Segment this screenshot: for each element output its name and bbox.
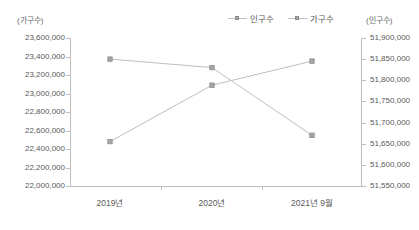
data-point-marker[interactable] bbox=[210, 65, 214, 69]
series-plot-area bbox=[0, 0, 419, 230]
data-point-marker[interactable] bbox=[310, 59, 314, 63]
data-point-marker[interactable] bbox=[310, 133, 314, 137]
data-point-marker[interactable] bbox=[108, 139, 112, 143]
line-chart: (가구수) (인구수) 인구수 가구수 23,600,00023,400,000… bbox=[0, 0, 419, 230]
series-line-가구수 bbox=[110, 61, 312, 142]
series-line-인구수 bbox=[110, 59, 312, 135]
data-point-marker[interactable] bbox=[108, 57, 112, 61]
data-point-marker[interactable] bbox=[210, 83, 214, 87]
